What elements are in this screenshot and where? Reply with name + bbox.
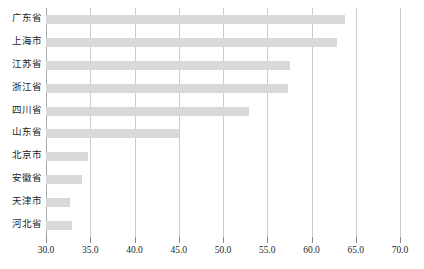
x-tick-label: 40.0 [126, 245, 143, 255]
x-tick-label: 45.0 [170, 245, 187, 255]
bar [46, 61, 290, 70]
bar [46, 84, 288, 93]
bar [46, 175, 82, 184]
gridline-65.0 [356, 8, 357, 237]
bar [46, 152, 88, 161]
x-tick-label: 35.0 [82, 245, 99, 255]
bar [46, 129, 179, 138]
category-label: 上海市 [0, 37, 42, 46]
category-label: 江苏省 [0, 60, 42, 69]
plot-area [46, 8, 400, 237]
x-tick-label: 65.0 [347, 245, 364, 255]
tick-mark-45.0 [179, 237, 180, 243]
bar [46, 15, 345, 24]
x-tick-label: 50.0 [215, 245, 232, 255]
horizontal-bar-chart: 广东省上海市江苏省浙江省四川省山东省北京市安徽省天津市河北省 30.035.04… [0, 0, 424, 269]
bar [46, 107, 249, 116]
x-tick-label: 55.0 [259, 245, 276, 255]
category-axis-labels: 广东省上海市江苏省浙江省四川省山东省北京市安徽省天津市河北省 [0, 8, 42, 237]
tick-mark-55.0 [267, 237, 268, 243]
bar [46, 221, 72, 230]
category-label: 广东省 [0, 14, 42, 23]
category-label: 浙江省 [0, 83, 42, 92]
tick-mark-65.0 [356, 237, 357, 243]
tick-mark-70.0 [400, 237, 401, 243]
x-tick-label: 60.0 [303, 245, 320, 255]
x-axis-tick-marks [46, 237, 400, 243]
x-axis-tick-labels: 30.035.040.045.050.055.060.065.070.0 [0, 245, 424, 259]
tick-mark-50.0 [223, 237, 224, 243]
tick-mark-60.0 [312, 237, 313, 243]
category-label: 四川省 [0, 106, 42, 115]
category-label: 安徽省 [0, 174, 42, 183]
tick-mark-35.0 [90, 237, 91, 243]
category-label: 天津市 [0, 197, 42, 206]
tick-mark-40.0 [135, 237, 136, 243]
x-tick-label: 70.0 [392, 245, 409, 255]
x-tick-label: 30.0 [38, 245, 55, 255]
category-label: 北京市 [0, 151, 42, 160]
gridline-70.0 [400, 8, 401, 237]
bar [46, 198, 70, 207]
tick-mark-30.0 [46, 237, 47, 243]
category-label: 河北省 [0, 220, 42, 229]
category-label: 山东省 [0, 128, 42, 137]
bar [46, 38, 337, 47]
